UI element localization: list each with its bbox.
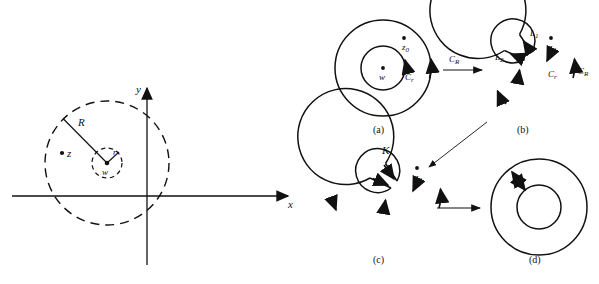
panel-a-point-w-dot bbox=[381, 66, 385, 70]
panel-d-caption: (d) bbox=[529, 254, 541, 266]
panel-b-outer-arc bbox=[430, 0, 526, 59]
panel-a-label-Cr: Cr bbox=[405, 72, 414, 84]
panel-b-arrow-inner-left bbox=[519, 70, 521, 82]
panel-b-arrow-L2 bbox=[511, 54, 522, 59]
transition-b-to-c-arrow bbox=[429, 122, 487, 167]
panel-a-group: w z0 Cr (a) bbox=[335, 20, 431, 136]
panel-c-label-K: K bbox=[381, 144, 390, 156]
panel-d-arrow-down bbox=[513, 174, 525, 190]
panel-b-label-CR: CR bbox=[578, 66, 589, 78]
panel-a-label-z0: z0 bbox=[401, 42, 410, 54]
panel-b-arrow-L1 bbox=[524, 41, 532, 52]
panel-c-cut-upper bbox=[386, 164, 398, 182]
panel-a-caption: (a) bbox=[373, 124, 384, 136]
panel-c-inner-arc bbox=[356, 149, 400, 193]
panel-d-outer-circle bbox=[491, 159, 587, 255]
point-z-dot bbox=[60, 151, 64, 155]
panel-b-label-L2: L2 bbox=[494, 52, 504, 64]
left-figure-group: R r z w y x bbox=[12, 83, 293, 265]
panel-c-arrow-outer-left bbox=[333, 196, 336, 210]
panel-b-label-Cr: Cr bbox=[548, 69, 557, 81]
panel-c-arrow-outer-right bbox=[439, 189, 441, 208]
transition-a-to-b-label: CR bbox=[449, 54, 460, 66]
panel-b-caption: (b) bbox=[517, 124, 529, 136]
panel-d-group: (d) bbox=[491, 159, 587, 266]
panel-c-group: K z0 (c) bbox=[298, 89, 441, 266]
panel-c-arrow-inner-left bbox=[385, 200, 387, 212]
figure-svg: R r z w y x w z0 Cr (a) bbox=[0, 0, 599, 284]
panel-c-outer-arc bbox=[298, 89, 394, 185]
label-y-axis: y bbox=[135, 83, 141, 95]
panel-b-group: L1 L2 z0 Cr CR (b) bbox=[430, 0, 589, 136]
label-z: z bbox=[66, 147, 72, 159]
point-w-dot bbox=[105, 161, 110, 166]
panel-b-label-L1: L1 bbox=[529, 28, 539, 40]
figure-container: R r z w y x w z0 Cr (a) bbox=[0, 0, 599, 284]
panel-a-label-w: w bbox=[379, 72, 385, 82]
label-x-axis: x bbox=[287, 198, 293, 210]
panel-c-arrow-cut-down bbox=[373, 179, 388, 186]
panel-b-arrow-outer-lower-left bbox=[498, 91, 507, 104]
panel-c-arrow-cut-up bbox=[384, 165, 394, 179]
label-w: w bbox=[102, 167, 108, 177]
panel-c-point-z0-dot bbox=[415, 166, 419, 170]
panel-a-point-z0-dot bbox=[402, 36, 406, 40]
panel-c-cut-lower bbox=[370, 178, 391, 188]
panel-b-arrow-outer-right bbox=[573, 59, 575, 78]
label-r: r bbox=[113, 147, 117, 157]
panel-b-point-z0-dot bbox=[549, 36, 553, 40]
panel-c-caption: (c) bbox=[373, 254, 384, 266]
label-R: R bbox=[77, 116, 85, 128]
panel-d-inner-circle bbox=[517, 185, 561, 229]
